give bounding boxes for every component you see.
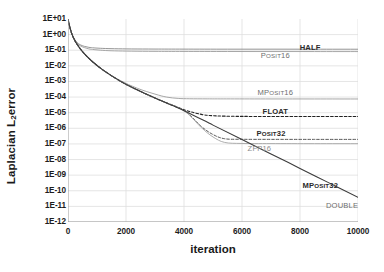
plot-area: HALFPOSIT16MPOSIT16FLOATPOSIT32ZFP16MPOS… bbox=[68, 19, 358, 222]
series-label-mposit16: MPOSIT16 bbox=[258, 87, 294, 96]
x-tick-label: 10000 bbox=[338, 227, 378, 236]
series-label-float: FLOAT bbox=[263, 106, 289, 115]
series-label-half: HALF bbox=[300, 43, 321, 52]
series-label-double: DOUBLE bbox=[326, 200, 358, 209]
x-tick-label: 2000 bbox=[106, 227, 146, 236]
x-tick-label: 8000 bbox=[280, 227, 320, 236]
x-tick-label: 4000 bbox=[164, 227, 204, 236]
x-tick-label: 6000 bbox=[222, 227, 262, 236]
x-axis-title: iteration bbox=[68, 243, 358, 255]
series-label-posit32: POSIT32 bbox=[256, 129, 285, 138]
series-label-zfp16: ZFP16 bbox=[248, 144, 272, 153]
series-label-mposit32: MPOSIT32 bbox=[303, 181, 339, 190]
series-label-posit16: POSIT16 bbox=[261, 51, 290, 60]
laplacian-error-chart: Laplacian L2 error 1E+011E+001E-011E-021… bbox=[0, 0, 384, 272]
x-tick-label: 0 bbox=[48, 227, 88, 236]
